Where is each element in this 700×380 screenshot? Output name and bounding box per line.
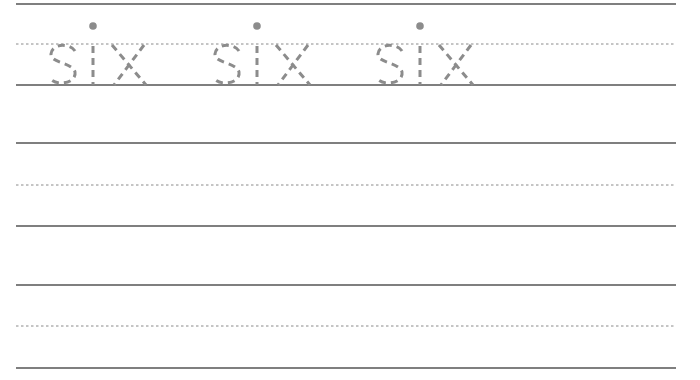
- letter-i-dot: [253, 22, 261, 30]
- traced-letter-s: [213, 45, 239, 83]
- traced-letter-x-stroke-2: [441, 45, 471, 85]
- writing-row-2: [16, 143, 676, 226]
- worksheet-canvas: [0, 0, 700, 380]
- writing-row-1: [16, 4, 676, 85]
- letter-i-dot: [89, 22, 97, 30]
- writing-row-3: [16, 285, 676, 368]
- traced-word-3: [376, 22, 473, 85]
- handwriting-worksheet: [0, 0, 700, 380]
- traced-word-2: [213, 22, 310, 85]
- traced-letter-s: [376, 45, 402, 83]
- letter-i-dot: [416, 22, 424, 30]
- traced-letter-s: [49, 45, 75, 83]
- traced-word-1: [49, 22, 146, 85]
- traced-letter-x-stroke-2: [278, 45, 308, 85]
- traced-letter-x-stroke-2: [114, 45, 144, 85]
